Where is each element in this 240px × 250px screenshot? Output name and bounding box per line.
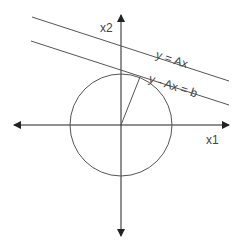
radius-line xyxy=(121,77,140,125)
line-y-minus-ax-equals-b xyxy=(31,41,229,105)
lower-line-label: y - Ax = b xyxy=(147,72,200,101)
diagram-canvas: x2 x1 y = Ax y - Ax = b xyxy=(0,0,240,250)
line-y-equals-ax xyxy=(32,17,229,81)
upper-line-label: y = Ax xyxy=(154,48,190,72)
y-axis-label: x2 xyxy=(100,21,113,35)
diagram-svg: x2 x1 y = Ax y - Ax = b xyxy=(0,0,240,250)
x-axis-label: x1 xyxy=(206,133,219,147)
